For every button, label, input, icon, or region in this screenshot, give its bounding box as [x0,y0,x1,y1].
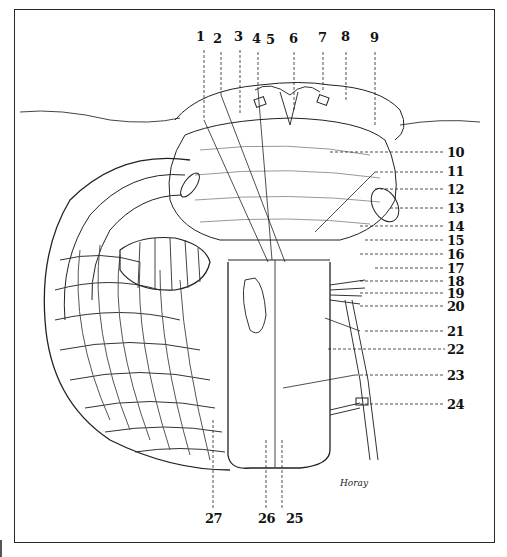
label-14: 14 [447,220,464,233]
label-6: 6 [289,32,298,45]
label-12: 12 [447,183,464,196]
label-16: 16 [447,248,464,261]
label-27: 27 [205,512,222,525]
label-11: 11 [447,165,464,178]
label-13: 13 [447,202,464,215]
label-25: 25 [286,512,303,525]
label-4: 4 [252,32,261,45]
label-10: 10 [447,146,464,159]
label-9: 9 [370,31,379,44]
label-21: 21 [447,325,464,338]
artist-signature: Horay [340,478,368,488]
brainstem-illustration [0,0,507,557]
label-1: 1 [196,30,205,43]
label-3: 3 [234,30,243,43]
label-20: 20 [447,300,464,313]
label-8: 8 [341,30,350,43]
label-5: 5 [266,33,275,46]
label-2: 2 [213,32,222,45]
label-23: 23 [447,369,464,382]
label-7: 7 [318,31,327,44]
label-22: 22 [447,343,464,356]
label-24: 24 [447,398,464,411]
label-15: 15 [447,234,464,247]
label-26: 26 [258,512,275,525]
